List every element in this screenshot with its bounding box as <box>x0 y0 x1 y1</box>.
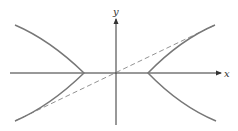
hyperbola-diagram: y x <box>0 0 238 131</box>
x-axis-label: x <box>224 68 230 79</box>
y-axis-label: y <box>112 6 119 17</box>
